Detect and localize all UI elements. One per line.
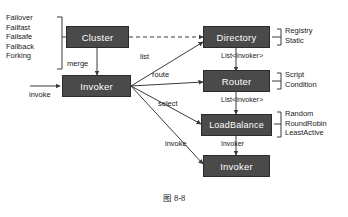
option-leastactive: LeastActive (285, 128, 327, 138)
node-loadbalance-label: LoadBalance (209, 120, 264, 130)
node-invoker-left-label: Invoker (80, 81, 113, 92)
edge-label-merge: merge (67, 60, 88, 68)
edge-label-invoke-left: invoke (29, 91, 51, 99)
bracket-loadbalance-types (274, 112, 281, 137)
edge-invoker-to-router (131, 82, 203, 86)
option-script: Script (285, 70, 317, 80)
node-cluster-label: Cluster (82, 32, 114, 43)
diagram-canvas: Failover Failfast Failsafe Failback Fork… (0, 0, 348, 217)
type-label-directory-to-router: List<Invoker> (221, 52, 263, 59)
type-label-router-to-loadbalance: List<Invoker> (221, 96, 263, 103)
cluster-strategy-list: Failover Failfast Failsafe Failback Fork… (6, 13, 34, 61)
loadbalance-type-list: Random RoundRobin LeastActive (285, 109, 327, 138)
node-invoker-bottom-label: Invoker (220, 161, 253, 172)
router-type-list: Script Condition (285, 70, 317, 89)
node-directory[interactable]: Directory (203, 26, 270, 48)
node-directory-label: Directory (217, 32, 257, 43)
node-router[interactable]: Router (203, 70, 270, 92)
bracket-cluster-strategies (57, 17, 66, 69)
option-condition: Condition (285, 80, 317, 90)
node-invoker-bottom[interactable]: Invoker (203, 155, 270, 177)
type-label-loadbalance-to-invoker: Invoker (221, 140, 244, 147)
edge-label-list: list (140, 53, 149, 61)
edge-invoker-to-directory (131, 42, 203, 86)
option-failover: Failover (6, 13, 34, 23)
node-router-label: Router (222, 76, 252, 87)
node-invoker-left[interactable]: Invoker (62, 75, 131, 97)
option-static: Static (285, 36, 313, 46)
edge-label-route: route (152, 71, 169, 79)
option-roundrobin: RoundRobin (285, 119, 327, 129)
edge-label-select: select (158, 100, 178, 108)
option-failback: Failback (6, 42, 34, 52)
option-failfast: Failfast (6, 23, 34, 33)
directory-type-list: Registry Static (285, 26, 313, 45)
option-failsafe: Failsafe (6, 32, 34, 42)
node-loadbalance[interactable]: LoadBalance (201, 114, 272, 136)
bracket-directory-types (272, 29, 281, 45)
option-registry: Registry (285, 26, 313, 36)
option-random: Random (285, 109, 327, 119)
node-cluster[interactable]: Cluster (66, 26, 129, 48)
edge-invoker-to-invoker-bottom (131, 86, 203, 164)
option-forking: Forking (6, 51, 34, 61)
edge-label-invoke-bottom: invoke (165, 140, 187, 148)
figure-caption: 图 8-8 (0, 191, 348, 203)
bracket-router-types (272, 73, 281, 89)
